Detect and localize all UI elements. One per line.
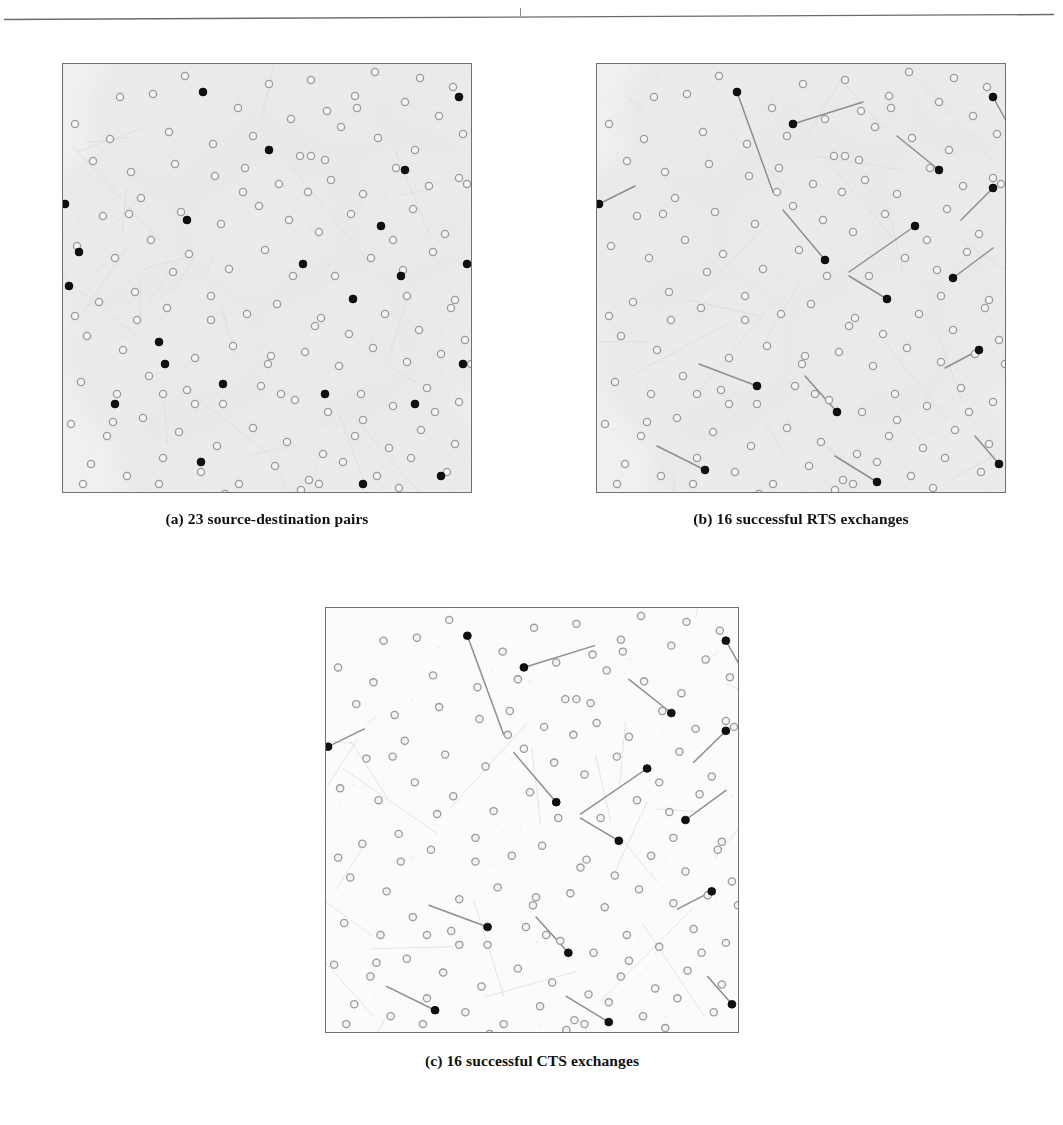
panel-c-plot[interactable] <box>325 607 739 1033</box>
panel-c: (c) 16 successful CTS exchanges <box>325 607 739 1077</box>
panel-a-plot[interactable] <box>62 63 472 493</box>
panel-a-caption: (a) 23 source-destination pairs <box>62 510 472 528</box>
figure-three-panel-network: (a) 23 source-destination pairs (b) 16 s… <box>0 0 1063 1125</box>
panel-b-caption: (b) 16 successful RTS exchanges <box>596 510 1006 528</box>
panel-b-plot[interactable] <box>596 63 1006 493</box>
panel-b: (b) 16 successful RTS exchanges <box>596 63 1006 533</box>
panel-a: (a) 23 source-destination pairs <box>62 63 472 533</box>
panel-c-caption: (c) 16 successful CTS exchanges <box>325 1052 739 1070</box>
